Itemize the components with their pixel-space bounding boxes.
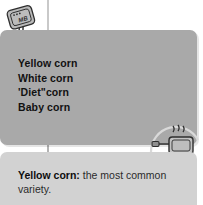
vertical-rule-top: [47, 0, 49, 32]
caption-panel: Yellow corn: the most common variety.: [0, 152, 197, 205]
caption-text: Yellow corn: the most common variety.: [18, 169, 185, 196]
list-item: 'Diet"corn: [18, 85, 189, 100]
list-item: Yellow corn: [18, 56, 189, 71]
list-item: White corn: [18, 71, 189, 86]
page-root: MB Yellow corn White corn 'Diet"corn Bab…: [0, 0, 203, 205]
caption-lead: Yellow corn:: [18, 169, 80, 181]
list-item: Baby corn: [18, 100, 189, 115]
corn-variety-list: Yellow corn White corn 'Diet"corn Baby c…: [18, 56, 189, 114]
